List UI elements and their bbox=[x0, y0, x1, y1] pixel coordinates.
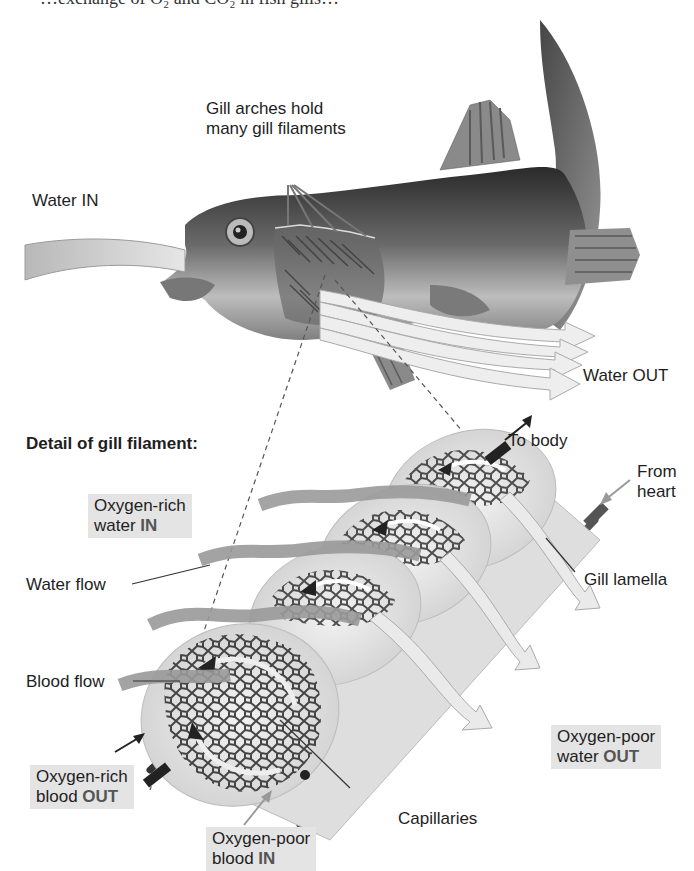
gill-arches-label: Gill arches hold many gill filaments bbox=[206, 99, 346, 139]
water-out-label: Water OUT bbox=[583, 366, 668, 386]
to-body-label: To body bbox=[508, 431, 568, 451]
blood-flow-label: Blood flow bbox=[26, 672, 104, 692]
oxygen-poor-blood-label: Oxygen-poor blood IN bbox=[206, 827, 316, 871]
capillaries-label: Capillaries bbox=[398, 809, 477, 829]
oxygen-rich-water-label: Oxygen-rich water IN bbox=[88, 494, 192, 538]
detail-heading: Detail of gill filament: bbox=[26, 434, 198, 454]
water-in-arrow bbox=[25, 239, 185, 280]
oxygen-rich-blood-label: Oxygen-rich blood OUT bbox=[30, 765, 134, 809]
gill-filament bbox=[115, 406, 608, 840]
gill-lamella-label: Gill lamella bbox=[584, 570, 667, 590]
oxygen-poor-water-label: Oxygen-poor water OUT bbox=[551, 725, 661, 769]
water-flow-label: Water flow bbox=[26, 575, 106, 595]
water-in-label: Water IN bbox=[32, 191, 98, 211]
from-heart-label: From heart bbox=[637, 462, 677, 502]
